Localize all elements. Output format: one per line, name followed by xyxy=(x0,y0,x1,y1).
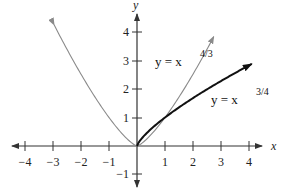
label-curve-3-4-exp: 3/4 xyxy=(256,86,269,97)
y-tick-label: 1 xyxy=(123,111,129,125)
x-tick-label: 2 xyxy=(190,155,196,169)
label-curve-4-3-base: y = x xyxy=(155,54,182,69)
x-tick-label: 1 xyxy=(162,155,168,169)
curve-x-4-3 xyxy=(54,25,214,146)
x-tick-label: 4 xyxy=(246,155,252,169)
x-tick-label: −4 xyxy=(19,155,32,169)
label-curve-3-4-base: y = x xyxy=(211,92,238,107)
x-axis-label: x xyxy=(270,139,277,153)
y-tick-label: 3 xyxy=(123,54,129,68)
x-axis: −4 −3 −2 −1 1 2 3 4 x xyxy=(12,139,277,169)
y-axis: 4 3 2 1 −1 y xyxy=(116,0,142,187)
label-curve-3-4: y = x 3/4 xyxy=(211,86,269,107)
x-tick-label: −2 xyxy=(75,155,88,169)
x-tick-label: −1 xyxy=(103,155,116,169)
chart: −4 −3 −2 −1 1 2 3 4 x 4 3 2 1 −1 y y = x… xyxy=(0,0,286,194)
label-curve-4-3-exp: 4/3 xyxy=(200,48,213,59)
y-tick-label: 2 xyxy=(123,82,129,96)
y-tick-label: −1 xyxy=(116,167,129,181)
x-tick-label: −3 xyxy=(47,155,60,169)
label-curve-4-3: y = x 4/3 xyxy=(155,48,213,69)
y-axis-label: y xyxy=(132,0,139,12)
x-tick-label: 3 xyxy=(218,155,224,169)
y-tick-label: 4 xyxy=(123,25,129,39)
